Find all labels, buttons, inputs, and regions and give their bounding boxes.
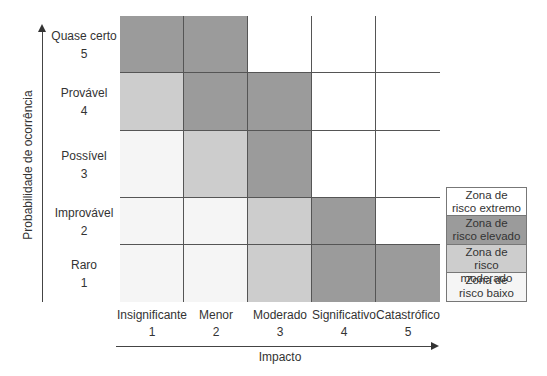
legend-item-extremo: Zona derisco extremo <box>447 188 526 216</box>
y-axis-line <box>42 30 43 302</box>
matrix-cell <box>312 131 376 198</box>
matrix-cell <box>312 73 376 131</box>
matrix-cell <box>248 131 312 198</box>
x-axis-label: Insignificante1 <box>116 307 188 341</box>
x-axis-line <box>116 346 431 347</box>
y-axis-label: Provável4 <box>48 84 120 120</box>
x-axis-arrow-icon <box>431 342 439 350</box>
y-axis-title: Probabilidade de ocorrência <box>21 90 35 239</box>
legend-item-elevado: Zona derisco elevado <box>447 216 526 244</box>
matrix-cell <box>248 198 312 245</box>
x-axis-label: Significativo4 <box>312 307 376 341</box>
y-axis-label: Quase certo5 <box>48 27 120 63</box>
matrix-cell <box>184 131 248 198</box>
y-axis-label: Raro1 <box>48 256 120 292</box>
matrix-cell <box>312 245 376 302</box>
matrix-cell <box>312 198 376 245</box>
matrix-cell <box>120 131 184 198</box>
legend-item-moderado: Zona derisco moderado <box>447 245 526 273</box>
x-axis-label: Menor2 <box>184 307 248 341</box>
matrix-cell <box>376 245 440 302</box>
y-axis-label: Improvável2 <box>48 204 120 240</box>
matrix-cell <box>376 198 440 245</box>
matrix-cell <box>184 73 248 131</box>
matrix-cell <box>248 73 312 131</box>
matrix-cell <box>184 245 248 302</box>
matrix-cell <box>376 131 440 198</box>
matrix-cell <box>376 16 440 73</box>
risk-matrix-grid <box>120 16 440 302</box>
x-axis-title: Impacto <box>259 350 302 364</box>
y-axis-arrow-icon <box>38 24 46 32</box>
matrix-cell <box>120 198 184 245</box>
legend-item-baixo: Zona derisco baixo <box>447 273 526 301</box>
matrix-cell <box>376 73 440 131</box>
matrix-cell <box>248 16 312 73</box>
matrix-cell <box>120 245 184 302</box>
matrix-cell <box>248 245 312 302</box>
matrix-cell <box>120 16 184 73</box>
matrix-cell <box>184 198 248 245</box>
y-axis-label: Possível3 <box>48 147 120 183</box>
x-axis-label: Moderado3 <box>248 307 312 341</box>
matrix-cell <box>184 16 248 73</box>
matrix-cell <box>120 73 184 131</box>
x-axis-label: Catastrófico5 <box>376 307 440 341</box>
legend: Zona derisco extremoZona derisco elevado… <box>446 187 527 302</box>
matrix-cell <box>312 16 376 73</box>
